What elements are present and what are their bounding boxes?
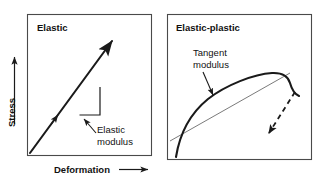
panel-elastic-plastic-frame — [168, 15, 312, 160]
panel-elastic-plastic: Elastic-plastic Tangent modulus — [168, 15, 312, 160]
slope-triangle — [80, 87, 101, 115]
elastic-modulus-label-line1: Elastic — [97, 124, 125, 135]
elastic-modulus-label-line2: modulus — [97, 136, 133, 147]
panel-elastic-title: Elastic — [37, 22, 68, 33]
unloading-dashed-arrow-icon — [269, 92, 295, 133]
panel-elastic-frame — [28, 15, 152, 156]
tangent-modulus-label-line2: modulus — [193, 59, 229, 70]
tangent-modulus-label-line1: Tangent — [193, 47, 227, 58]
tangent-modulus-pointer-icon — [203, 72, 213, 95]
stress-deformation-figure: Elastic Elastic modulus Stress Deformati… — [0, 0, 324, 179]
initial-tangent-line — [170, 73, 290, 141]
panel-elastic-plastic-title: Elastic-plastic — [176, 22, 240, 33]
panel-elastic: Elastic Elastic modulus — [28, 15, 152, 156]
elastic-modulus-pointer-icon — [84, 119, 96, 133]
axes-group: Stress Deformation — [6, 57, 149, 175]
x-axis-label: Deformation — [54, 164, 110, 175]
y-axis-label: Stress — [6, 98, 17, 127]
elastic-line-direction-marker — [50, 115, 58, 126]
